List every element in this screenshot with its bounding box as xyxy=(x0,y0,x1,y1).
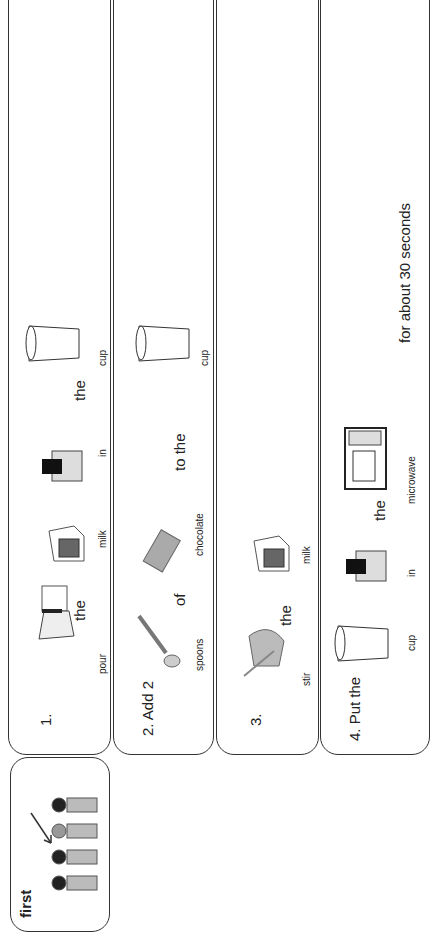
word-in: in xyxy=(97,449,108,457)
step-4-panel: 4. Put the cup in the microwave for abou… xyxy=(320,0,430,755)
first-panel: first xyxy=(10,757,110,932)
word-cup: cup xyxy=(97,350,108,366)
cup-icon xyxy=(333,621,393,666)
word-microwave: microwave xyxy=(406,456,417,504)
word-of: of xyxy=(171,593,188,606)
step-2-panel: 2. Add 2 spoons of chocolate to the cup xyxy=(113,0,214,755)
chocolate-bar-icon xyxy=(139,526,189,576)
word-to-the: to the xyxy=(171,433,188,471)
step-1-number: 1. xyxy=(37,713,54,726)
step-1-panel: 1. pour the milk in the cup xyxy=(8,0,111,755)
word-in: in xyxy=(406,569,417,577)
word-the: the xyxy=(371,500,388,521)
word-pour: pour xyxy=(97,654,108,674)
cup-icon xyxy=(24,321,84,366)
stir-icon xyxy=(239,621,294,681)
word-milk: milk xyxy=(301,546,312,564)
cup-icon xyxy=(134,321,194,366)
step-4-duration: for about 30 seconds xyxy=(396,203,413,343)
word-spoons: spoons xyxy=(194,639,205,671)
microwave-icon xyxy=(343,426,388,491)
first-label: first xyxy=(17,890,34,918)
step-3-number: 3. xyxy=(247,713,264,726)
milk-carton-icon xyxy=(249,531,294,576)
word-the-2: the xyxy=(71,380,88,401)
word-stir: stir xyxy=(301,673,312,686)
milk-carton-icon xyxy=(44,521,89,566)
children-queue-icon xyxy=(49,793,104,903)
step-3-panel: 3. stir the milk xyxy=(216,0,319,755)
word-the: the xyxy=(71,600,88,621)
word-the: the xyxy=(277,605,294,626)
word-milk: milk xyxy=(97,530,108,548)
spoon-icon xyxy=(134,611,184,671)
word-cup: cup xyxy=(406,635,417,651)
in-box-icon xyxy=(341,541,396,596)
word-chocolate: chocolate xyxy=(194,513,205,556)
step-2-number: 2. Add 2 xyxy=(139,681,156,736)
step-4-number: 4. Put the xyxy=(346,677,363,741)
in-box-icon xyxy=(37,441,92,496)
word-cup: cup xyxy=(199,350,210,366)
